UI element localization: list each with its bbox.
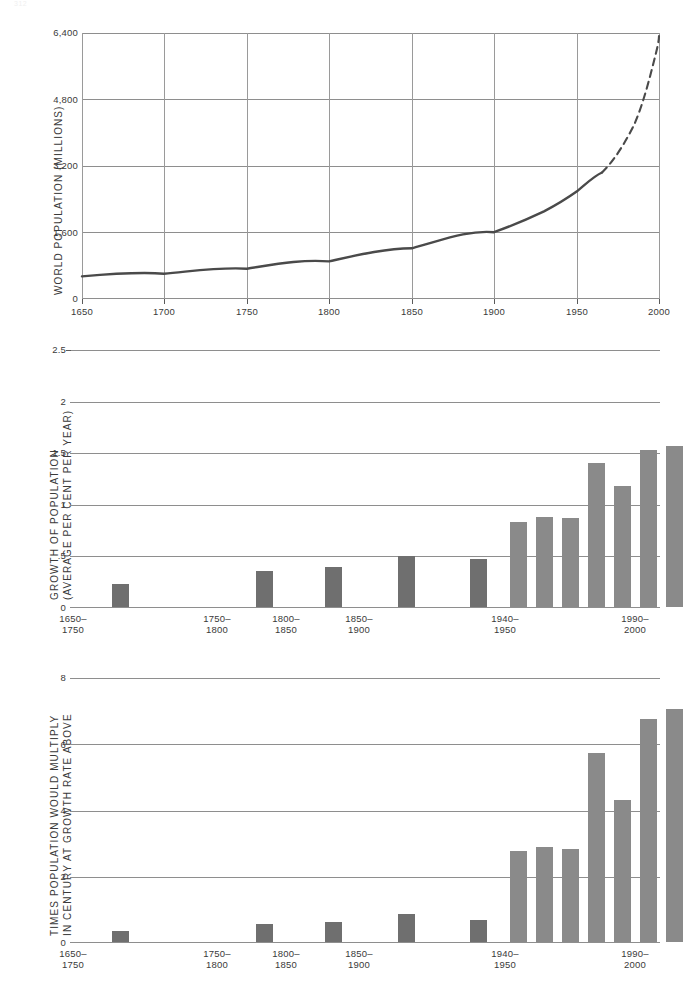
ytick-label: 4,800 bbox=[30, 94, 78, 105]
ytick-label: 2 bbox=[38, 871, 66, 882]
bar-1850-1900 bbox=[398, 914, 415, 942]
y-axis-title-world-population: WORLD POPULATION (MILLIONS) bbox=[52, 105, 65, 295]
bar-1950-1960 bbox=[536, 847, 553, 942]
bar-1950-1960 bbox=[536, 517, 553, 607]
bar-1960-1970 bbox=[562, 518, 579, 607]
gridline-4 bbox=[70, 811, 660, 812]
bar-1990-2000a bbox=[640, 450, 657, 607]
page-folio: 312 bbox=[14, 0, 27, 7]
bar-1750-1800 bbox=[256, 924, 273, 942]
gridline-1p5 bbox=[70, 453, 660, 454]
xtick-label: 1800 bbox=[309, 306, 349, 317]
xtick-label: 1850 bbox=[392, 306, 432, 317]
world-population-curve bbox=[82, 33, 660, 299]
ytick-label: 4 bbox=[38, 805, 66, 816]
xtick-mark bbox=[164, 299, 165, 304]
gridline-1 bbox=[70, 505, 660, 506]
bar-1940-1950 bbox=[510, 522, 527, 607]
plot-area-world-population bbox=[82, 33, 660, 299]
xtick-label: 1750 bbox=[227, 306, 267, 317]
bar-1650-1750 bbox=[112, 584, 129, 607]
bar-1940-1950 bbox=[510, 851, 527, 942]
gridline-2p5 bbox=[70, 350, 660, 351]
ytick-mark bbox=[66, 350, 71, 351]
bar-1850-1900 bbox=[398, 556, 415, 607]
bar-1750-1800 bbox=[256, 571, 273, 607]
ytick-label: 0 bbox=[30, 293, 78, 304]
xtick-mark bbox=[412, 299, 413, 304]
xtick-mark bbox=[577, 299, 578, 304]
ytick-label: 1 bbox=[38, 499, 66, 510]
bar-1800-1850 bbox=[325, 567, 342, 607]
ytick-label: 6,400 bbox=[30, 27, 78, 38]
ytick-label: 2.5 bbox=[38, 344, 66, 355]
xtick-mark bbox=[659, 299, 660, 304]
plot-area-times-multiply bbox=[70, 678, 660, 943]
ytick-label: 0 bbox=[38, 602, 66, 613]
bar-1990-2000a bbox=[640, 719, 657, 942]
xtick-mark bbox=[494, 299, 495, 304]
ytick-label: .5 bbox=[38, 550, 66, 561]
bar-1990-2000b bbox=[666, 446, 683, 607]
ytick-label: 3,200 bbox=[30, 160, 78, 171]
xtick-label: 1650 bbox=[62, 306, 102, 317]
bar-1900-1940 bbox=[470, 559, 487, 607]
gridline-2 bbox=[70, 402, 660, 403]
gridline-6 bbox=[70, 744, 660, 745]
xtick-mark bbox=[329, 299, 330, 304]
bar-1650-1750 bbox=[112, 931, 129, 942]
axis-x-baseline bbox=[70, 942, 660, 943]
xtick-label-1990-2000: 1990– 2000 bbox=[592, 613, 678, 635]
xtick-label-1850-1900: 1850– 1900 bbox=[316, 613, 402, 635]
axis-x-baseline bbox=[70, 607, 660, 608]
ytick-label: 2 bbox=[38, 396, 66, 407]
bar-1800-1850 bbox=[325, 922, 342, 943]
curve-projected bbox=[602, 36, 659, 173]
xtick-label: 2000 bbox=[639, 306, 679, 317]
bar-1900-1940 bbox=[470, 920, 487, 943]
bar-1980-1990 bbox=[614, 486, 631, 607]
ytick-label: 8 bbox=[38, 672, 66, 683]
bar-1980-1990 bbox=[614, 800, 631, 943]
curve-observed bbox=[82, 173, 602, 277]
xtick-label-1990-2000: 1990– 2000 bbox=[592, 948, 678, 970]
xtick-label: 1900 bbox=[474, 306, 514, 317]
xtick-label: 1700 bbox=[144, 306, 184, 317]
bar-1970-1980 bbox=[588, 753, 605, 943]
ytick-label: 6 bbox=[38, 739, 66, 750]
xtick-mark bbox=[247, 299, 248, 304]
plot-area-growth-of-population bbox=[70, 402, 660, 608]
gridline-8 bbox=[70, 678, 660, 679]
ytick-label: 1,600 bbox=[30, 227, 78, 238]
xtick-label-1650-1750: 1650– 1750 bbox=[30, 613, 116, 635]
xtick-mark bbox=[82, 299, 83, 304]
xtick-label-1940-1950: 1940– 1950 bbox=[462, 613, 548, 635]
bar-1990-2000b bbox=[666, 709, 683, 942]
ytick-label: 1.5 bbox=[38, 447, 66, 458]
bar-1970-1980 bbox=[588, 463, 605, 607]
xtick-label-1940-1950: 1940– 1950 bbox=[462, 948, 548, 970]
xtick-label-1650-1750: 1650– 1750 bbox=[30, 948, 116, 970]
xtick-label-1850-1900: 1850– 1900 bbox=[316, 948, 402, 970]
ytick-label: 0 bbox=[38, 937, 66, 948]
xtick-label: 1950 bbox=[557, 306, 597, 317]
bar-1960-1970 bbox=[562, 849, 579, 942]
